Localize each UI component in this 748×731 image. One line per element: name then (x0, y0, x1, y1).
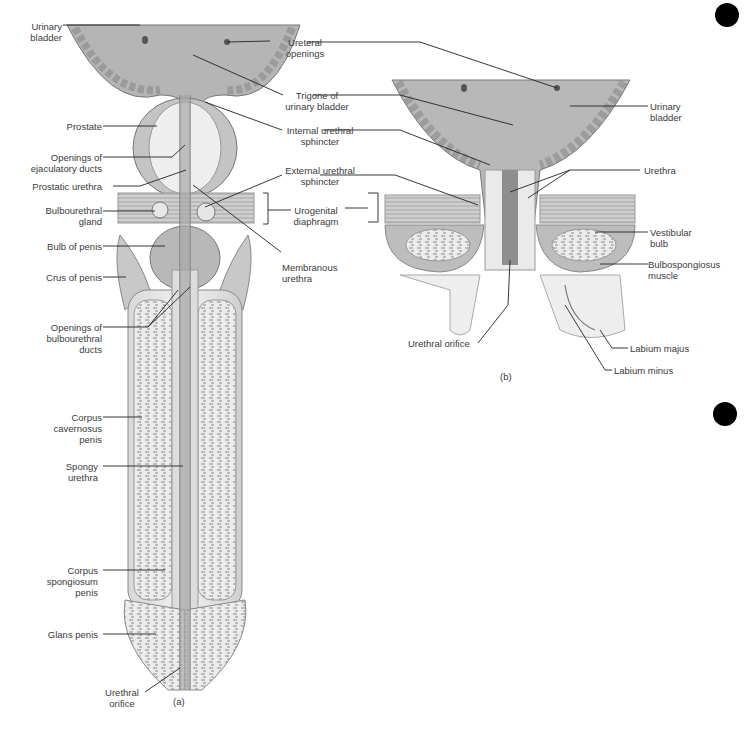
label-urinary-bladder-a: Urinarybladder (10, 21, 62, 43)
registration-dot-middle (713, 402, 737, 426)
label-urogenital-diaphragm: Urogenitaldiaphragm (286, 205, 346, 227)
caption-b: (b) (500, 371, 512, 382)
label-prostatic-urethra: Prostatic urethra (10, 181, 102, 192)
label-bulb-of-penis: Bulb of penis (10, 241, 102, 252)
label-prostate: Prostate (20, 121, 102, 132)
label-internal-sphincter: Internal urethralsphincter (280, 125, 360, 147)
label-corpus-spongiosum: Corpusspongiosumpenis (10, 565, 98, 598)
label-spongy-urethra: Spongyurethra (10, 461, 98, 483)
label-external-sphincter: External urethralsphincter (278, 165, 362, 187)
label-urinary-bladder-b: Urinarybladder (650, 101, 682, 123)
label-labium-majus: Labium majus (630, 343, 689, 354)
label-glans-penis: Glans penis (10, 629, 98, 640)
label-labium-minus: Labium minus (614, 365, 673, 376)
label-corpus-cavernosum: Corpuscavernosuspenis (10, 412, 102, 445)
label-trigone: Trigone ofurinary bladder (280, 90, 354, 112)
label-membranous-urethra: Membranousurethra (282, 262, 337, 284)
label-crus-of-penis: Crus of penis (10, 272, 102, 283)
label-urethra-b: Urethra (644, 165, 676, 176)
label-urethral-orifice-a: Urethralorifice (100, 687, 144, 709)
label-ureteral-openings: Ureteralopenings (270, 37, 340, 59)
label-bulbourethral-ducts: Openings ofbulbourethralducts (10, 322, 102, 355)
label-vestibular-bulb: Vestibularbulb (650, 227, 692, 249)
label-ejaculatory-ducts: Openings ofejaculatory ducts (10, 152, 102, 174)
registration-dot-top (715, 3, 739, 27)
label-bulbospongiosus: Bulbospongiosusmuscle (648, 259, 720, 281)
label-bulbourethral-gland: Bulbourethralgland (10, 205, 102, 227)
female-figure (385, 80, 635, 338)
caption-a: (a) (173, 696, 185, 707)
label-urethral-orifice-b: Urethral orifice (408, 338, 470, 349)
